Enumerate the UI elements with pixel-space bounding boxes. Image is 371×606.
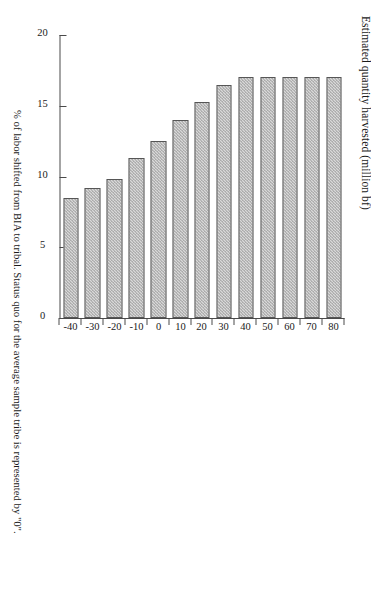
category-tick <box>190 318 191 325</box>
category-tick-label: 40 <box>240 320 251 334</box>
bar <box>326 77 341 318</box>
plot-area: Estimated quantity harvested (million bf… <box>0 0 371 606</box>
value-tick <box>59 106 66 107</box>
category-tick-label: 60 <box>284 320 295 334</box>
category-tick-label: 10 <box>174 320 185 334</box>
category-tick-label: -20 <box>107 320 121 334</box>
bar <box>216 85 231 318</box>
category-tick-label: 30 <box>218 320 229 334</box>
category-tick <box>343 318 344 325</box>
value-tick-label: 20 <box>27 27 57 38</box>
value-tick <box>59 318 66 319</box>
y-axis-title: Estimated quantity harvested (million bf… <box>355 16 371 356</box>
category-tick <box>58 318 59 325</box>
value-tick-label: 15 <box>27 98 57 109</box>
category-tick <box>146 318 147 325</box>
value-tick-label: 0 <box>27 310 57 321</box>
value-tick-label: 5 <box>27 239 57 250</box>
category-tick-label: -10 <box>129 320 143 334</box>
x-axis-caption: % of labor shifted from BIA to tribal. S… <box>11 110 23 534</box>
value-tick <box>59 35 66 36</box>
category-tick <box>102 318 103 325</box>
chart-figure: Estimated quantity harvested (million bf… <box>0 0 371 606</box>
category-tick <box>233 318 234 325</box>
bar <box>304 77 319 318</box>
rotated-chart-stage: Estimated quantity harvested (million bf… <box>0 0 371 606</box>
category-tick-label: 80 <box>328 320 339 334</box>
category-tick <box>299 318 300 325</box>
category-tick-label: 50 <box>262 320 273 334</box>
category-tick <box>168 318 169 325</box>
bar <box>150 141 165 318</box>
bar <box>282 77 297 318</box>
bar <box>172 120 187 318</box>
category-tick <box>255 318 256 325</box>
category-tick-label: 0 <box>155 320 160 334</box>
category-tick-label: 70 <box>306 320 317 334</box>
bar <box>84 188 99 318</box>
category-tick-label: 20 <box>196 320 207 334</box>
bar <box>238 77 253 318</box>
category-tick <box>211 318 212 325</box>
bar <box>106 179 121 318</box>
bar <box>63 198 78 318</box>
category-tick <box>124 318 125 325</box>
bar <box>128 158 143 318</box>
bar <box>260 77 275 318</box>
category-tick <box>80 318 81 325</box>
category-tick-label: -40 <box>63 320 77 334</box>
value-tick <box>59 177 66 178</box>
category-tick <box>277 318 278 325</box>
category-tick-label: -30 <box>85 320 99 334</box>
category-tick <box>321 318 322 325</box>
value-tick-label: 10 <box>27 169 57 180</box>
bar <box>194 102 209 318</box>
